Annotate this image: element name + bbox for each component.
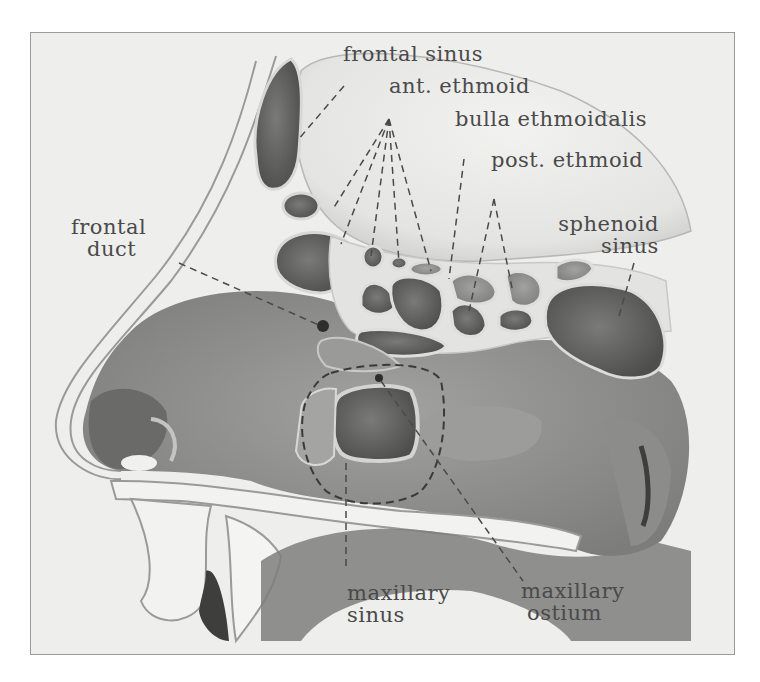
label-frontal-duct: frontal duct (71, 216, 146, 260)
frontal-duct-opening (317, 320, 329, 332)
ant-ethmoid-cell-1 (283, 193, 319, 219)
maxillary-sinus-shape (333, 386, 418, 461)
label-post-ethmoid: post. ethmoid (491, 149, 643, 171)
label-sphenoid-sinus: sphenoid sinus (543, 213, 659, 257)
illustration-plate: frontal sinus ant. ethmoid bulla ethmoid… (30, 32, 735, 655)
label-bulla-ethmoidalis: bulla ethmoidalis (455, 108, 647, 130)
label-frontal-sinus: frontal sinus (343, 43, 483, 65)
label-ant-ethmoid: ant. ethmoid (389, 75, 530, 97)
maxillary-ostium-opening (375, 374, 383, 382)
nostril-highlight (121, 455, 157, 471)
frontal-sinus-shape (255, 59, 301, 189)
label-maxillary-ostium: maxillary ostium (521, 580, 624, 624)
label-maxillary-sinus: maxillary sinus (347, 582, 450, 626)
upper-lip (131, 499, 211, 620)
